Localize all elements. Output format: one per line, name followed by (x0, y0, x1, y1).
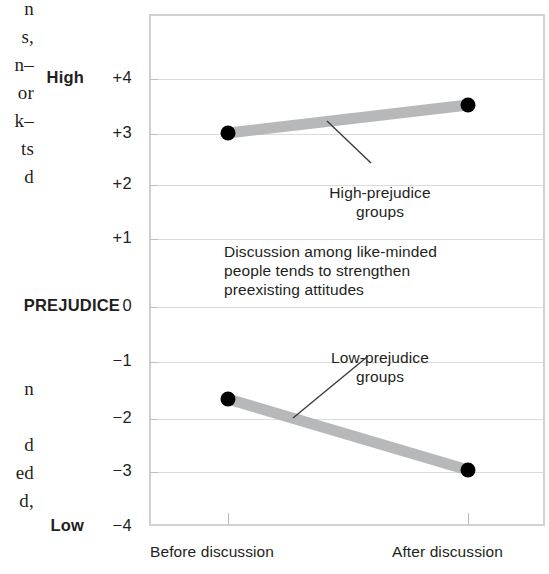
series-line-high-prejudice (228, 105, 468, 133)
data-point-high-after (461, 98, 476, 113)
annotation-low-prejudice: Low-prejudice groups (300, 348, 460, 386)
annotation-caption-line2: people tends to strengthen (224, 261, 514, 280)
data-point-high-before (221, 126, 236, 141)
annotation-caption: Discussion among like-minded people tend… (224, 242, 514, 299)
series-line-low-prejudice (228, 399, 468, 470)
annotation-low-line2: groups (300, 367, 460, 386)
figure-root: n s, n– or k– ts d n d ed d, High PREJUD… (0, 0, 549, 574)
data-point-low-before (221, 392, 236, 407)
x-axis-label-after: After discussion (392, 543, 503, 561)
annotation-high-line1: High-prejudice (300, 183, 460, 202)
annotation-caption-line3: preexisting attitudes (224, 280, 514, 299)
annotation-high-prejudice: High-prejudice groups (300, 183, 460, 221)
annotation-caption-line1: Discussion among like-minded (224, 242, 514, 261)
data-point-low-after (461, 463, 476, 478)
leader-line-high-prejudice (327, 121, 371, 163)
annotation-low-line1: Low-prejudice (300, 348, 460, 367)
annotation-high-line2: groups (300, 202, 460, 221)
x-axis-label-before: Before discussion (150, 543, 274, 561)
